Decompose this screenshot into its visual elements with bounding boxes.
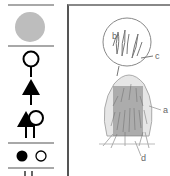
- divider: [8, 142, 54, 144]
- illustration-panel: b c a d: [67, 4, 170, 176]
- label-b: b: [112, 32, 117, 41]
- legend-column: [0, 0, 60, 176]
- label-a: a: [163, 106, 168, 115]
- divider: [8, 167, 54, 169]
- label-c: c: [155, 52, 160, 61]
- filled-and-open-dot-icon: [14, 149, 50, 163]
- double-stem-icon: [22, 171, 36, 176]
- filled-grey-circle-icon: [14, 11, 46, 43]
- label-d: d: [141, 154, 146, 163]
- divider: [8, 4, 54, 6]
- filled-triangle-on-stem-icon: [20, 78, 42, 106]
- divider: [8, 45, 54, 47]
- open-circle-on-stem-icon: [20, 50, 42, 80]
- grass-tussock-illustration: [69, 6, 170, 176]
- triangle-and-circle-on-stems-icon: [16, 109, 46, 139]
